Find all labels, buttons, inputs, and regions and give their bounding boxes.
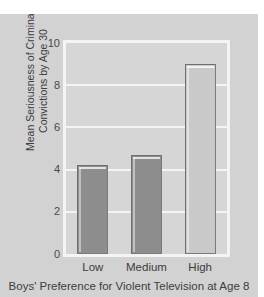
bar-series — [66, 43, 227, 254]
bar-highlight-top — [187, 66, 214, 68]
bar-medium[interactable] — [131, 155, 162, 254]
bar-highlight-left — [133, 157, 135, 252]
chart-figure: Mean Seriousness of Criminal Convictions… — [0, 14, 258, 297]
y-tick-label-4: 4 — [36, 164, 60, 175]
x-tick-label-high: High — [173, 260, 227, 274]
y-tick-label-0: 0 — [36, 249, 60, 260]
bar-highlight-top — [79, 167, 106, 169]
bar-slot-medium — [120, 43, 174, 254]
x-axis-tick-labels: LowMediumHigh — [63, 260, 230, 278]
y-tick-label-8: 8 — [36, 80, 60, 91]
plot-area — [63, 40, 230, 257]
x-tick-label-low: Low — [66, 260, 120, 274]
bar-highlight-left — [187, 66, 189, 252]
bar-slot-low — [66, 43, 120, 254]
y-axis-tick-labels: 0246810 — [32, 40, 60, 257]
bar-highlight-left — [79, 167, 81, 252]
y-tick-label-2: 2 — [36, 206, 60, 217]
bar-highlight-top — [133, 157, 160, 159]
x-tick-label-medium: Medium — [120, 260, 174, 274]
bar-high[interactable] — [185, 64, 216, 254]
y-tick-label-6: 6 — [36, 122, 60, 133]
bar-low[interactable] — [77, 165, 108, 254]
bar-slot-high — [173, 43, 227, 254]
x-axis-title: Boys' Preference for Violent Television … — [0, 279, 258, 293]
y-tick-label-10: 10 — [36, 38, 60, 49]
